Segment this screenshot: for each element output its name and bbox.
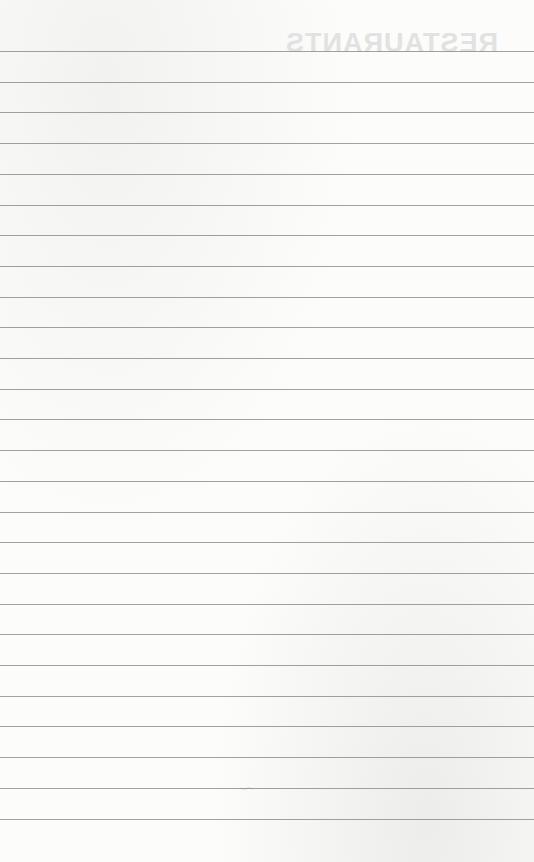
ruled-line (0, 634, 534, 635)
ruled-line (0, 205, 534, 206)
ruled-line (0, 665, 534, 666)
ruled-line (0, 757, 534, 758)
ruled-line (0, 573, 534, 574)
ruled-line (0, 358, 534, 359)
ruled-line (0, 266, 534, 267)
ruled-lines (0, 0, 534, 862)
ruled-line (0, 297, 534, 298)
ruled-line (0, 389, 534, 390)
ruled-line (0, 450, 534, 451)
ruled-line (0, 419, 534, 420)
ruled-line (0, 819, 534, 820)
ruled-line (0, 542, 534, 543)
ruled-line (0, 604, 534, 605)
ruled-line (0, 82, 534, 83)
ruled-line (0, 143, 534, 144)
ruled-line (0, 512, 534, 513)
ruled-line (0, 235, 534, 236)
ruled-line (0, 696, 534, 697)
ruled-line (0, 51, 534, 52)
ruled-line (0, 327, 534, 328)
ruled-line (0, 112, 534, 113)
ruled-line (0, 726, 534, 727)
ruled-line (0, 174, 534, 175)
ruled-line (0, 788, 534, 789)
ruled-line (0, 481, 534, 482)
